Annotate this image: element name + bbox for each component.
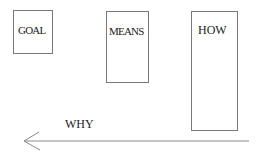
- left-arrow-icon: [0, 0, 257, 158]
